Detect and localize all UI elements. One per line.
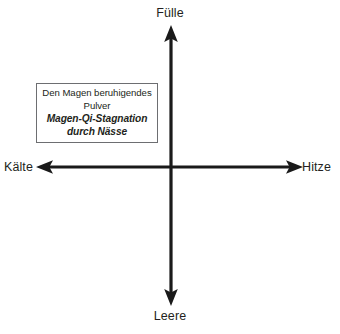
formula-box-line-4: durch Nässe [39,125,155,138]
axis-label-left-kaelte: Kälte [4,160,33,174]
axis-label-bottom-leere: Leere [0,309,340,323]
tcm-quadrant-diagram: Fülle Leere Kälte Hitze Den Magen beruhi… [0,0,340,334]
axis-label-right-hitze: Hitze [302,160,331,174]
formula-box-line-3: Magen-Qi-Stagnation [39,112,155,125]
formula-box-line-2: Pulver [39,100,155,112]
axes-graphic [0,0,340,334]
formula-annotation-box: Den Magen beruhigendes Pulver Magen-Qi-S… [36,83,158,143]
formula-box-line-1: Den Magen beruhigendes [39,87,155,99]
axis-label-top-fuelle: Fülle [0,6,340,20]
